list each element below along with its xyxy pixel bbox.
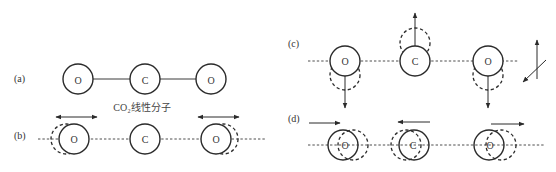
svg-text:C: C [412, 56, 419, 67]
atom-oxygen-left: O [59, 124, 89, 154]
atom-oxygen-right: O [201, 124, 231, 154]
svg-text:O: O [341, 56, 348, 67]
svg-text:C: C [142, 75, 149, 86]
atom-carbon: C [400, 46, 430, 76]
co2-vibration-diagram: (a) O C O CO₂线性分子 (b) O C [0, 0, 556, 172]
svg-text:O: O [212, 134, 219, 145]
panel-a: (a) O C O CO₂线性分子 [14, 64, 226, 113]
panel-c-label: (c) [288, 38, 299, 50]
atom-oxygen-right: O [473, 46, 503, 76]
svg-text:O: O [341, 140, 348, 151]
panel-a-label: (a) [14, 73, 25, 85]
molecule-caption: CO₂线性分子 [113, 101, 170, 113]
atom-oxygen-left: O [63, 64, 93, 94]
atom-carbon: C [130, 64, 160, 94]
atom-oxygen-left: O [330, 46, 360, 76]
svg-text:O: O [70, 134, 77, 145]
atom-oxygen-right: O [196, 64, 226, 94]
coordinate-axes-icon [523, 40, 546, 82]
svg-text:O: O [486, 140, 493, 151]
panel-b-label: (b) [14, 130, 26, 142]
svg-text:O: O [484, 56, 491, 67]
svg-text:C: C [142, 134, 149, 145]
panel-c: (c) O C O [288, 13, 546, 108]
svg-text:O: O [207, 75, 214, 86]
panel-d: (d) O C O [288, 113, 544, 160]
svg-text:C: C [410, 140, 417, 151]
svg-text:O: O [74, 75, 81, 86]
atom-carbon: C [130, 124, 160, 154]
panel-d-label: (d) [288, 113, 300, 125]
panel-b: (b) O C O [14, 117, 266, 154]
